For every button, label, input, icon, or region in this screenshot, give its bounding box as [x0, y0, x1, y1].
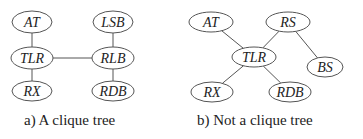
node-label-tlr: TLR — [20, 51, 45, 66]
panel-b: ATRSTLRBSRXRDB — [189, 12, 343, 102]
edge-rs-tlr — [263, 31, 279, 48]
node-label-rx: RX — [202, 85, 221, 100]
node-label-rdb: RDB — [98, 84, 127, 99]
node-label-rs: RS — [279, 15, 296, 30]
caption-b: b) Not a clique tree — [197, 112, 313, 129]
edge-tlr-rx — [222, 66, 243, 84]
node-label-rx: RX — [22, 84, 41, 99]
edge-at-tlr — [222, 31, 244, 49]
panel-a: ATLSBTLRRLBRXRDB — [11, 11, 134, 101]
node-label-at: AT — [202, 15, 220, 30]
edge-tlr-rdb — [263, 66, 280, 83]
caption-a: a) A clique tree — [24, 112, 115, 129]
node-label-at: AT — [23, 15, 41, 30]
node-label-rlb: RLB — [100, 51, 126, 66]
node-label-tlr: TLR — [242, 50, 267, 65]
node-label-bs: BS — [317, 60, 333, 75]
edge-rs-bs — [296, 31, 318, 58]
node-label-lsb: LSB — [100, 15, 125, 30]
node-label-rdb: RDB — [275, 85, 304, 100]
